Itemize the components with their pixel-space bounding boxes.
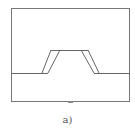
diagram-figure [0,0,135,131]
bottom-mark [68,101,73,103]
figure-caption: a) [0,114,135,125]
right-slope-inner [81,50,94,73]
outer-frame [12,9,130,102]
right-slope-outer [88,50,99,73]
